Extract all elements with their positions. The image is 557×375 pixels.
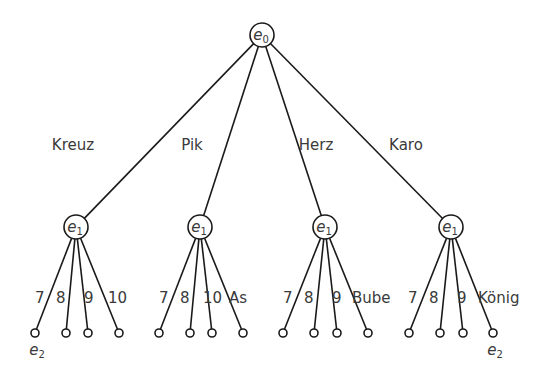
card-label: As [229,289,247,307]
suit-label-herz: Herz [299,136,334,154]
leaf-node [436,329,444,337]
card-label: 7 [35,289,45,307]
card-label: 10 [203,289,222,307]
leaf-node [364,329,372,337]
card-label: 8 [304,289,314,307]
card-label: 7 [408,289,418,307]
edge-karo [270,44,442,219]
leaf-node [31,329,39,337]
edge-pik [204,46,259,215]
card-label: 9 [332,289,342,307]
leaf-label-e2: e2 [29,341,45,360]
edge-card [66,238,75,329]
card-label: 7 [283,289,293,307]
card-label: 9 [84,289,94,307]
leaf-node [310,329,318,337]
suit-label-karo: Karo [389,136,423,154]
leaf-label-e2: e2 [487,341,503,360]
suit-label-pik: Pik [181,136,203,154]
edge-card [36,238,71,330]
card-label: Bube [352,289,391,307]
card-label: 8 [180,289,190,307]
leaf-node [208,329,216,337]
edge-kreuz [84,44,253,219]
card-label: 9 [457,289,467,307]
card-label: 8 [56,289,66,307]
leaf-node [84,329,92,337]
edges [36,44,491,330]
card-label: 10 [108,289,127,307]
leaf-node [489,329,497,337]
suit-label-kreuz: Kreuz [52,136,94,154]
edge-card [190,238,199,329]
labels: Kreuze178910e2Pike17810AsHerze1789BubeKa… [29,26,519,360]
card-label: 8 [429,289,439,307]
card-label: 7 [159,289,169,307]
leaf-node [279,329,287,337]
leaf-node [115,329,123,337]
leaf-node [186,329,194,337]
leaf-node [405,329,413,337]
tree-diagram: Kreuze178910e2Pike17810AsHerze1789BubeKa… [0,0,557,375]
edge-card [160,238,195,330]
leaf-node [62,329,70,337]
edge-herz [266,46,322,215]
leaf-node [155,329,163,337]
leaf-node [239,329,247,337]
leaf-node [459,329,467,337]
card-label: König [478,289,519,307]
leaf-node [333,329,341,337]
